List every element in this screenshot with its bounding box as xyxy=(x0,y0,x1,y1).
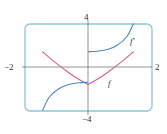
y-max-label: 4 xyxy=(84,12,89,22)
y-min-label: −4 xyxy=(82,114,92,124)
x-max-label: 2 xyxy=(155,62,160,72)
curve-f-prime-left xyxy=(43,82,89,110)
graph: 4 −4 −2 2 f f′ xyxy=(0,0,167,134)
f-label: f xyxy=(108,78,112,88)
curve-f-prime-right xyxy=(88,23,134,51)
f-prime-label: f′ xyxy=(130,36,136,46)
x-min-label: −2 xyxy=(4,62,14,72)
